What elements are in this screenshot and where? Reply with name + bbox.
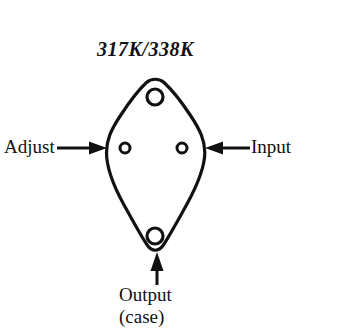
input-pin-label: Input (251, 136, 291, 158)
bottom-mounting-hole (147, 228, 163, 244)
adjust-pin-label: Adjust (4, 136, 55, 158)
top-mounting-hole (147, 89, 163, 105)
adjust-pin-hole (120, 143, 130, 153)
output-case-sublabel: (case) (119, 306, 164, 328)
input-pin-hole (177, 143, 187, 153)
output-pin-label: Output (119, 284, 172, 306)
part-number-label: 317K/338K (97, 38, 194, 61)
output-arrowhead-icon (151, 252, 164, 271)
adjust-arrowhead-icon (89, 142, 107, 155)
figure-canvas: 317K/338K Adjust Input Output (case) (0, 0, 359, 330)
input-arrowhead-icon (205, 142, 223, 155)
